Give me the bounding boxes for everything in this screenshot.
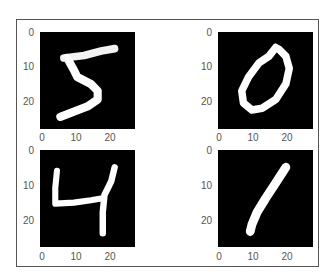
xtick-label: 10 bbox=[243, 133, 263, 143]
ytick-label: 0 bbox=[12, 28, 34, 38]
ytick-label: 20 bbox=[12, 216, 34, 226]
xtick-label: 20 bbox=[100, 133, 120, 143]
xtick-label: 10 bbox=[243, 252, 263, 262]
digit-image-1 bbox=[218, 150, 313, 247]
digit-image-5 bbox=[40, 32, 135, 129]
xtick-label: 10 bbox=[66, 133, 86, 143]
digit-image-4 bbox=[40, 150, 135, 247]
xtick-label: 10 bbox=[66, 252, 86, 262]
xtick-label: 20 bbox=[277, 133, 297, 143]
ytick-label: 20 bbox=[12, 97, 34, 107]
xtick-label: 20 bbox=[277, 252, 297, 262]
ytick-label: 10 bbox=[12, 62, 34, 72]
xtick-label: 20 bbox=[100, 252, 120, 262]
ytick-label: 0 bbox=[190, 28, 212, 38]
ytick-label: 20 bbox=[190, 97, 212, 107]
ytick-label: 0 bbox=[190, 146, 212, 156]
ytick-label: 10 bbox=[190, 62, 212, 72]
xtick-label: 0 bbox=[209, 133, 229, 143]
digit-image-0 bbox=[218, 32, 313, 129]
ytick-label: 10 bbox=[12, 181, 34, 191]
xtick-label: 0 bbox=[32, 252, 52, 262]
xtick-label: 0 bbox=[209, 252, 229, 262]
xtick-label: 0 bbox=[32, 133, 52, 143]
clipped-caption-text bbox=[0, 0, 331, 3]
ytick-label: 10 bbox=[190, 181, 212, 191]
ytick-label: 20 bbox=[190, 216, 212, 226]
ytick-label: 0 bbox=[12, 146, 34, 156]
